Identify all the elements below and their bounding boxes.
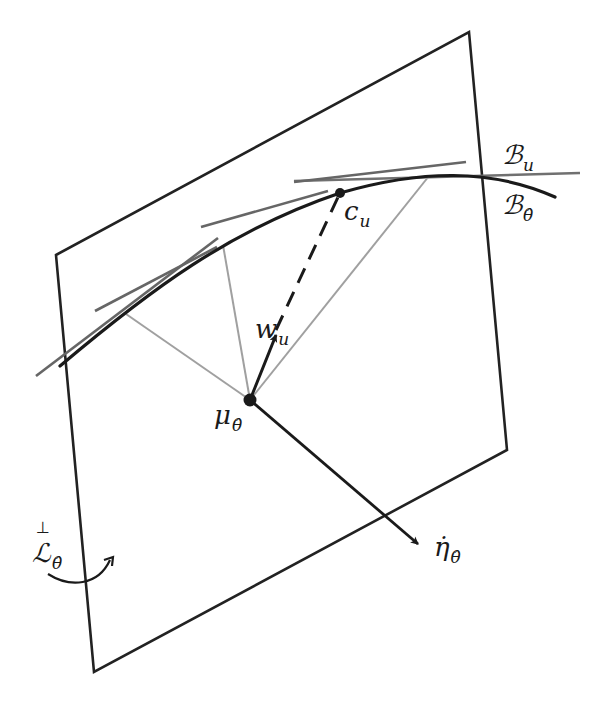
- label-mu-theta: μθ̂: [214, 402, 242, 428]
- projection-line-3: [250, 176, 429, 400]
- tangent-line-2: [95, 247, 217, 311]
- plane-outline: [56, 32, 507, 672]
- curve-b-theta: [60, 175, 555, 366]
- label-c-u: cu: [344, 198, 371, 224]
- vector-eta-dot: [250, 400, 418, 544]
- diagram-canvas: [0, 0, 610, 704]
- vector-w-u: [250, 335, 276, 400]
- projection-line-1: [126, 314, 250, 400]
- label-b-theta: ℬθ̂: [502, 192, 533, 218]
- label-l-perp-theta: ℒθ̂: [32, 540, 62, 566]
- tangent-line-3: [201, 191, 328, 227]
- label-perp-symbol: ⊥: [36, 518, 50, 537]
- projection-line-2: [223, 245, 250, 400]
- label-w-u: wu: [255, 316, 289, 342]
- label-b-u: ℬu: [502, 142, 534, 168]
- point-mu: [244, 394, 257, 407]
- label-eta-dot-theta: η̇θ̂: [434, 534, 461, 560]
- tangent-line-1: [36, 238, 218, 376]
